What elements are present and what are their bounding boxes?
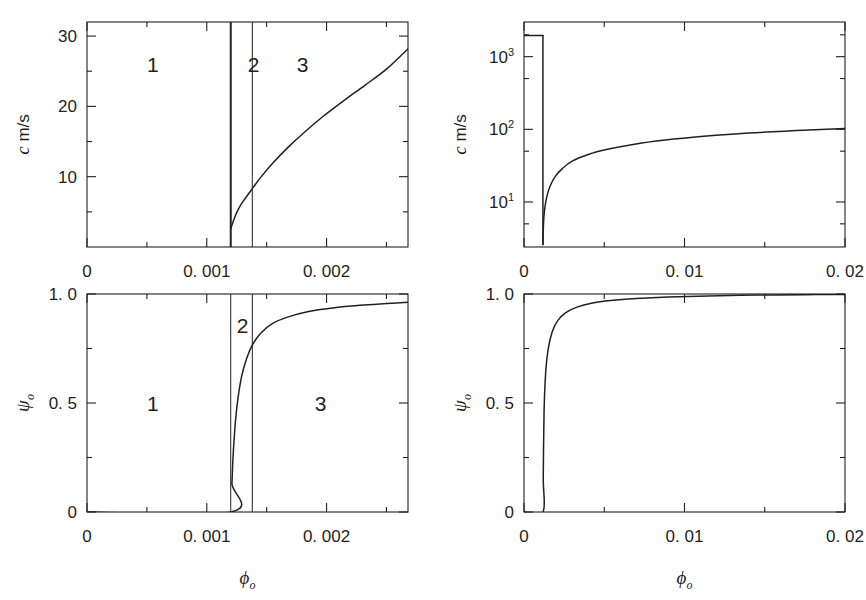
x-tick-label: 0. 002 xyxy=(303,527,350,546)
curves-bottom-right xyxy=(524,294,845,514)
x-tick-label: 0 xyxy=(82,527,91,546)
x-tick-label: 0. 02 xyxy=(826,262,864,281)
x-tick-label: 0 xyxy=(519,527,528,546)
y-tick-label: 0. 5 xyxy=(486,394,514,413)
panel-top-left: 00. 0010. 002102030123 xyxy=(58,22,408,281)
data-curve-psi xyxy=(524,294,845,514)
ticklabels-bottom-right: 00. 010. 0200. 51. 0 xyxy=(486,285,864,546)
y-axis-label-top-left: c m/s xyxy=(12,114,33,155)
ticklabels-top-right: 00. 010. 02101102103 xyxy=(489,46,864,281)
x-tick-label: 0. 002 xyxy=(303,262,350,281)
y-tick-label: 20 xyxy=(58,97,77,116)
y-tick-label: 1. 0 xyxy=(49,285,77,304)
region-label-1: 1 xyxy=(147,392,159,415)
ticks-top-right xyxy=(524,22,845,247)
plot-frame-bottom-right xyxy=(524,294,845,512)
ticklabels-bottom-left: 00. 0010. 00200. 51. 0 xyxy=(49,285,351,546)
x-tick-label: 0. 001 xyxy=(183,262,230,281)
figure-root: 00. 0010. 002102030123c m/s00. 0010. 002… xyxy=(0,0,866,600)
y-tick-label: 10 xyxy=(58,168,77,187)
x-tick-label: 0. 01 xyxy=(666,527,704,546)
region-label-1: 1 xyxy=(147,53,159,76)
y-axis-label-top-right: c m/s xyxy=(449,114,470,155)
x-tick-label: 0 xyxy=(519,262,528,281)
y-axis-label-bottom-right: ψo xyxy=(449,394,474,412)
y-tick-label: 101 xyxy=(489,191,514,212)
data-curve-c-branch-lower xyxy=(543,128,845,244)
region-label-3: 3 xyxy=(297,53,309,76)
panel-top-right: 00. 010. 02101102103 xyxy=(489,22,864,281)
y-tick-label: 1. 0 xyxy=(486,285,514,304)
y-tick-label: 0 xyxy=(68,503,77,522)
x-axis-label-bottom-right: ϕo xyxy=(677,567,693,592)
curves-top-right xyxy=(524,36,845,245)
x-axis-label-bottom-left: ϕo xyxy=(240,567,256,592)
plot-frame-top-right xyxy=(524,22,845,247)
panel-bottom-right: 00. 010. 0200. 51. 0 xyxy=(486,285,864,546)
y-axis-label-bottom-left: ψo xyxy=(12,394,37,412)
y-tick-label: 0 xyxy=(505,503,514,522)
panel-bottom-left: 00. 0010. 00200. 51. 0123 xyxy=(49,285,408,546)
y-tick-label: 30 xyxy=(58,27,77,46)
ticks-bottom-right xyxy=(524,294,845,512)
region-label-3: 3 xyxy=(315,392,327,415)
y-tick-label: 0. 5 xyxy=(49,394,77,413)
x-tick-label: 0 xyxy=(82,262,91,281)
region-label-2: 2 xyxy=(248,53,260,76)
x-tick-label: 0. 02 xyxy=(826,527,864,546)
x-tick-label: 0. 01 xyxy=(666,262,704,281)
y-tick-label: 103 xyxy=(489,46,514,67)
y-tick-label: 102 xyxy=(489,118,514,139)
x-tick-label: 0. 001 xyxy=(183,527,230,546)
four-panel-plot: 00. 0010. 002102030123c m/s00. 0010. 002… xyxy=(0,0,866,600)
region-label-2: 2 xyxy=(237,314,249,337)
